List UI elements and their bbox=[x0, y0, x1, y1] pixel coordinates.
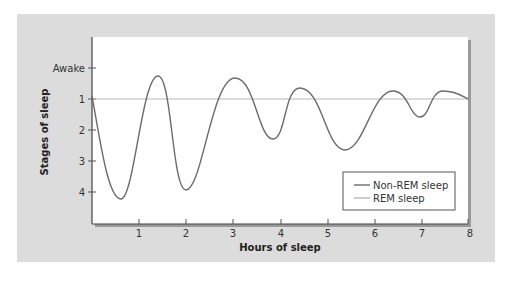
legend: Non-REM sleep REM sleep bbox=[343, 172, 455, 210]
x-tick-4: 4 bbox=[278, 228, 284, 239]
x-tick-8: 8 bbox=[467, 228, 473, 239]
x-tick-labels: 1 2 3 4 5 6 7 8 bbox=[136, 228, 473, 239]
y-tick-2: 2 bbox=[79, 125, 85, 136]
x-axis-title: Hours of sleep bbox=[239, 242, 321, 253]
x-tick-5: 5 bbox=[325, 228, 331, 239]
x-tick-3: 3 bbox=[230, 228, 236, 239]
y-tick-awake: Awake bbox=[53, 63, 85, 74]
legend-label-non-rem: Non-REM sleep bbox=[373, 180, 448, 191]
y-tick-labels: Awake 1 2 3 4 bbox=[53, 63, 85, 198]
x-tick-2: 2 bbox=[183, 228, 189, 239]
legend-box bbox=[343, 172, 455, 210]
y-tick-1: 1 bbox=[79, 94, 85, 105]
x-tick-1: 1 bbox=[136, 228, 142, 239]
y-tick-3: 3 bbox=[79, 156, 85, 167]
x-tick-6: 6 bbox=[372, 228, 378, 239]
y-axis-title: Stages of sleep bbox=[39, 89, 50, 176]
legend-label-rem: REM sleep bbox=[373, 193, 425, 204]
y-tick-4: 4 bbox=[79, 187, 85, 198]
x-tick-7: 7 bbox=[419, 228, 425, 239]
sleep-stages-chart: Awake 1 2 3 4 1 2 3 4 5 6 7 8 Hours of s… bbox=[0, 0, 511, 281]
